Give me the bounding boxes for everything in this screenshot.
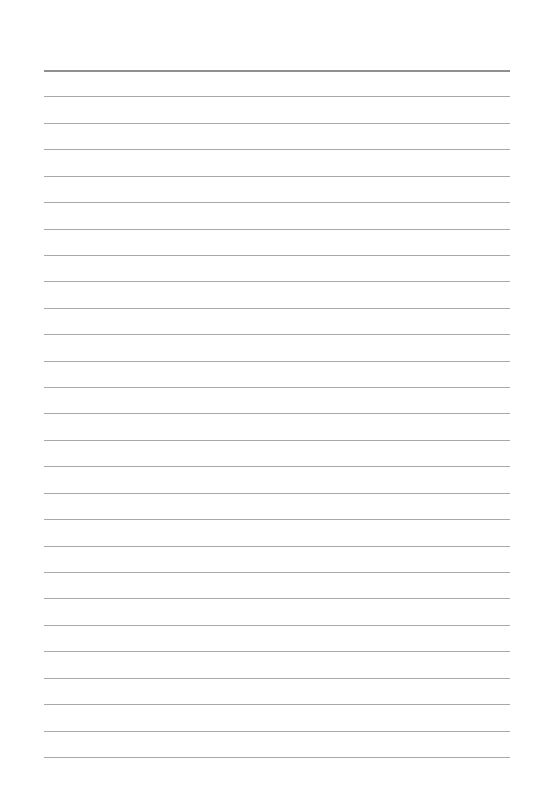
rule-line	[44, 361, 510, 362]
rule-line	[44, 281, 510, 282]
rule-line	[44, 466, 510, 467]
rule-line	[44, 572, 510, 573]
rule-line	[44, 757, 510, 758]
header-rule-line	[44, 70, 510, 72]
rule-line	[44, 546, 510, 547]
rule-line	[44, 229, 510, 230]
rule-line	[44, 176, 510, 177]
rule-line	[44, 625, 510, 626]
rule-line	[44, 308, 510, 309]
rule-line	[44, 255, 510, 256]
rule-line	[44, 598, 510, 599]
rule-line	[44, 440, 510, 441]
rule-line	[44, 678, 510, 679]
rule-line	[44, 96, 510, 97]
lined-paper-page	[0, 0, 543, 806]
rule-line	[44, 149, 510, 150]
rule-line	[44, 704, 510, 705]
rule-line	[44, 123, 510, 124]
rule-line	[44, 387, 510, 388]
rule-line	[44, 731, 510, 732]
rule-line	[44, 334, 510, 335]
rule-line	[44, 202, 510, 203]
rule-line	[44, 413, 510, 414]
rule-line	[44, 519, 510, 520]
rule-line	[44, 651, 510, 652]
rule-line	[44, 493, 510, 494]
